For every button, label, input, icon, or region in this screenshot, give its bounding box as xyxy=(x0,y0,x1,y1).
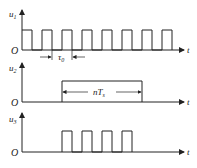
tau0-label: τ0 xyxy=(58,52,64,63)
origin-u2: O xyxy=(11,97,18,108)
panel-u3: u3 t O xyxy=(9,113,190,158)
xlabel-u3: t xyxy=(187,147,190,157)
xlabel-u1: t xyxy=(187,45,190,55)
ylabel-u2: u2 xyxy=(9,63,17,74)
panel-u1: u1 t O τ0 xyxy=(9,9,190,63)
origin-u1: O xyxy=(11,45,18,56)
ylabel-u1: u1 xyxy=(9,9,17,20)
waveform-diagram: u1 t O τ0 nTs u2 t O u3 t O xyxy=(0,0,197,168)
gated-wave-u3 xyxy=(62,131,132,152)
nTs-label: nTs xyxy=(93,87,106,98)
panel-u2: nTs u2 t O xyxy=(9,63,190,108)
xlabel-u2: t xyxy=(187,97,190,107)
origin-u3: O xyxy=(11,147,18,158)
square-wave-u1 xyxy=(22,30,172,50)
ylabel-u3: u3 xyxy=(9,114,17,125)
